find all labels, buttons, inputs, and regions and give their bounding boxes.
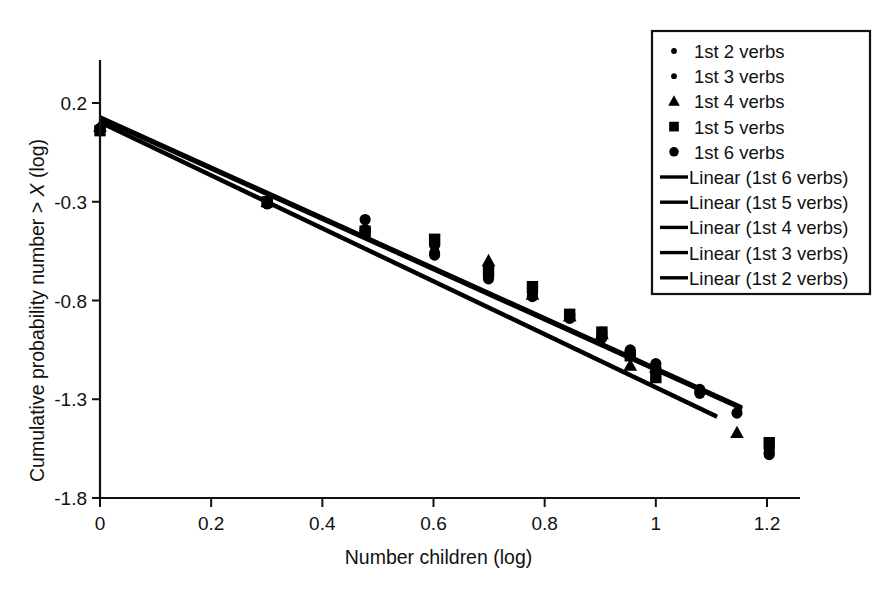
- legend-item-label: Linear (1st 3 verbs): [689, 243, 848, 264]
- legend-item-label: 1st 6 verbs: [694, 142, 785, 163]
- chart-figure: 0.2-0.3-0.8-1.3-1.800.20.40.60.811.2Numb…: [0, 0, 885, 590]
- legend-item-label: Linear (1st 5 verbs): [689, 192, 848, 213]
- data-point-marker: [483, 273, 494, 284]
- legend-marker-swatch: [669, 147, 679, 157]
- y-tick-label: -0.8: [54, 291, 87, 312]
- scatter-plot-svg: 0.2-0.3-0.8-1.3-1.800.20.40.60.811.2Numb…: [0, 0, 885, 590]
- regression-lines-group: [100, 117, 742, 417]
- data-point-marker: [596, 332, 607, 343]
- y-tick-label: -1.8: [54, 488, 87, 509]
- x-tick-label: 0: [95, 513, 106, 534]
- legend-item-label: Linear (1st 2 verbs): [689, 268, 848, 289]
- x-tick-label: 0.8: [531, 513, 557, 534]
- data-point-marker: [262, 198, 273, 209]
- data-point-marker: [730, 426, 744, 438]
- legend-item-label: Linear (1st 4 verbs): [689, 217, 848, 238]
- data-point-marker: [360, 224, 371, 235]
- x-tick-label: 0.2: [198, 513, 224, 534]
- data-point-marker: [731, 407, 742, 418]
- x-axis-title: Number children (log): [345, 546, 533, 568]
- legend-item-label: 1st 3 verbs: [694, 66, 785, 87]
- x-tick-label: 0.4: [309, 513, 336, 534]
- x-tick-label: 1.2: [754, 513, 780, 534]
- legend: 1st 2 verbs1st 3 verbs1st 4 verbs1st 5 v…: [652, 31, 870, 294]
- data-point-marker: [764, 449, 775, 460]
- legend-item-label: 1st 2 verbs: [694, 41, 785, 62]
- legend-item-label: 1st 4 verbs: [694, 91, 785, 112]
- data-point-marker: [527, 291, 538, 302]
- y-tick-label: -1.3: [54, 389, 87, 410]
- data-point-marker: [764, 437, 775, 448]
- data-point-marker: [694, 384, 705, 395]
- legend-marker-swatch: [671, 73, 677, 79]
- y-tick-label: -0.3: [54, 192, 87, 213]
- regression-line: [100, 123, 717, 417]
- x-tick-label: 0.6: [420, 513, 446, 534]
- legend-marker-swatch: [671, 48, 677, 54]
- data-point-marker: [429, 234, 440, 245]
- regression-line: [100, 118, 742, 408]
- x-tick-label: 1: [651, 513, 662, 534]
- legend-marker-swatch: [669, 122, 679, 132]
- y-tick-label: 0.2: [61, 93, 87, 114]
- data-point-marker: [625, 348, 636, 359]
- y-axis-title: Cumulative probability number > X (log): [26, 139, 48, 482]
- data-point-marker: [564, 311, 575, 322]
- data-point-marker: [527, 281, 538, 292]
- data-point-marker: [429, 248, 440, 259]
- data-point-marker: [482, 254, 496, 266]
- data-point-marker: [650, 364, 661, 375]
- legend-item-label: Linear (1st 6 verbs): [689, 167, 848, 188]
- data-point-marker: [360, 214, 371, 225]
- legend-item-label: 1st 5 verbs: [694, 117, 785, 138]
